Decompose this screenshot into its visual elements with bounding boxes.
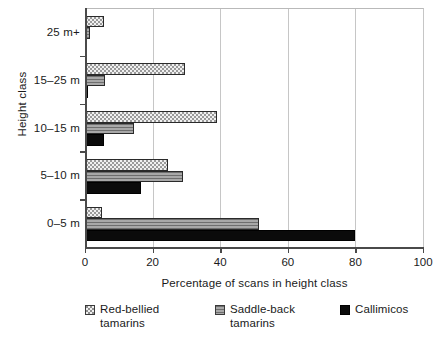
bar — [85, 63, 185, 75]
x-axis-tick — [220, 248, 221, 253]
legend-item[interactable]: Red-bellied tamarins — [85, 303, 159, 330]
x-axis-tick-label: 20 — [146, 256, 159, 268]
legend-item[interactable]: Saddle-back tamarins — [215, 303, 295, 330]
x-axis-tick — [355, 248, 356, 253]
legend-label: Red-bellied tamarins — [100, 303, 159, 330]
x-axis-line — [85, 247, 424, 249]
bar — [85, 182, 141, 194]
bar — [85, 123, 134, 135]
bar — [85, 230, 355, 242]
x-axis-tick-label: 0 — [82, 256, 88, 268]
x-axis-title: Percentage of scans in height class — [85, 277, 424, 289]
legend-label: Callimicos — [355, 303, 408, 317]
legend-swatch-icon — [85, 305, 95, 315]
y-axis-tick — [80, 199, 85, 200]
legend-item[interactable]: Callimicos — [340, 303, 408, 317]
plot-area — [85, 8, 424, 248]
y-axis-tick — [80, 56, 85, 57]
bar — [85, 207, 102, 219]
gridline — [423, 9, 424, 248]
x-axis-tick-label: 80 — [349, 256, 362, 268]
y-axis-tick-label: 5–10 m — [6, 169, 80, 181]
x-axis-tick-label: 60 — [281, 256, 294, 268]
bar — [85, 134, 104, 146]
bar — [85, 218, 259, 230]
y-axis-tick-label: 25 m+ — [6, 26, 80, 38]
y-axis-line — [85, 8, 87, 248]
y-axis-tick — [80, 151, 85, 152]
legend-label: Saddle-back tamarins — [230, 303, 295, 330]
gridline — [153, 9, 154, 248]
gridline — [288, 9, 289, 248]
y-axis-tick-label: 15–25 m — [6, 74, 80, 86]
bar — [85, 75, 105, 87]
y-axis-tick-label: 10–15 m — [6, 122, 80, 134]
x-axis-tick — [288, 248, 289, 253]
gridline — [355, 9, 356, 248]
bar — [85, 159, 168, 171]
bar — [85, 16, 104, 28]
bar — [85, 171, 183, 183]
chart-legend: Red-bellied tamarinsSaddle-back tamarins… — [85, 303, 437, 335]
x-axis-tick-label: 100 — [413, 256, 432, 268]
y-axis-tick-label: 0–5 m — [6, 217, 80, 229]
y-axis-tick — [80, 104, 85, 105]
x-axis-tick — [423, 248, 424, 253]
bar-chart-figure: Height class 25 m+15–25 m10–15 m5–10 m0–… — [0, 0, 440, 337]
legend-swatch-icon — [340, 305, 350, 315]
legend-swatch-icon — [215, 305, 225, 315]
x-axis-tick-label: 40 — [214, 256, 227, 268]
x-axis-tick — [153, 248, 154, 253]
x-axis-tick — [85, 248, 86, 253]
y-axis-tick-labels: 25 m+15–25 m10–15 m5–10 m0–5 m — [0, 0, 80, 337]
gridline — [220, 9, 221, 248]
bar — [85, 111, 217, 123]
